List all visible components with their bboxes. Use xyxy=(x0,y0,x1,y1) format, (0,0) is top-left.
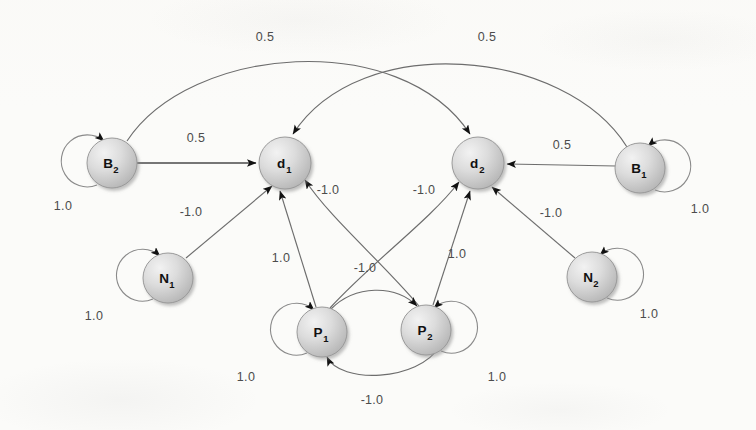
p-edge-group xyxy=(280,191,470,307)
weight-labels-layer: 0.50.50.50.5-1.0-1.01.01.0-1.0-1.0-1.0-1… xyxy=(54,30,709,407)
edge-N1-d1 xyxy=(186,186,272,258)
weight-label-d2-B1: 0.5 xyxy=(553,138,571,152)
diagram-canvas: B2d1d2B1N1N2P1P2 0.50.50.50.5-1.0-1.01.0… xyxy=(0,0,756,430)
weight-label-B2-d1: 0.5 xyxy=(187,131,205,145)
edge-d2-B1 xyxy=(507,164,616,166)
n-edge-group xyxy=(186,186,575,258)
weight-label-P1-d1: 1.0 xyxy=(272,251,290,265)
weight-label-P2-d1: -1.0 xyxy=(317,183,340,197)
edge-B1-d1 xyxy=(293,64,627,147)
nodes-layer: B2d1d2B1N1N2P1P2 xyxy=(87,137,665,357)
weight-label-loop-P1: 1.0 xyxy=(237,370,255,384)
node-subscript-d2: 2 xyxy=(479,164,484,175)
weight-label-B1-d1: 0.5 xyxy=(478,30,496,44)
weight-label-N1-d1: -1.0 xyxy=(180,205,203,219)
node-label-P2: P xyxy=(417,323,426,338)
weight-label-loop-N1: 1.0 xyxy=(85,309,103,323)
node-subscript-P2: 2 xyxy=(427,331,432,342)
node-label-N2: N xyxy=(583,270,593,285)
weight-label-loop-N2: 1.0 xyxy=(640,307,658,321)
edge-N2-d2 xyxy=(492,187,575,258)
weight-label-loop-B2: 1.0 xyxy=(54,199,72,213)
edge-P1-d2 xyxy=(330,182,459,308)
weight-label-P2-P1: -1.0 xyxy=(361,393,384,407)
weight-label-P1-P2: -1.0 xyxy=(354,261,377,275)
node-subscript-d1: 1 xyxy=(286,164,292,175)
weight-label-loop-P2: 1.0 xyxy=(488,370,506,384)
node-label-B1: B xyxy=(631,161,641,176)
edge-P1-d1 xyxy=(280,191,316,307)
node-subscript-B2: 2 xyxy=(113,164,118,175)
edge-B2-d2 xyxy=(127,61,470,141)
node-subscript-B1: 1 xyxy=(641,169,647,180)
graph-svg: B2d1d2B1N1N2P1P2 0.50.50.50.5-1.0-1.01.0… xyxy=(0,0,756,430)
weight-label-P1-d2: -1.0 xyxy=(413,183,436,197)
weight-label-N2-d2: -1.0 xyxy=(540,206,563,220)
weight-label-P2-d2: 1.0 xyxy=(448,247,466,261)
cross-edge-group xyxy=(305,180,459,308)
weight-label-B2-d2: 0.5 xyxy=(256,30,274,44)
edge-P2-d1 xyxy=(305,180,419,306)
node-label-d2: d xyxy=(470,156,478,171)
node-label-P1: P xyxy=(313,325,322,340)
mid-edge-group xyxy=(137,163,616,166)
weight-label-loop-B1: 1.0 xyxy=(691,202,709,216)
self-loop-group xyxy=(61,135,690,355)
node-label-d1: d xyxy=(277,156,285,171)
node-label-B2: B xyxy=(103,156,113,171)
node-subscript-N2: 2 xyxy=(593,278,598,289)
node-subscript-P1: 1 xyxy=(323,333,329,344)
node-subscript-N1: 1 xyxy=(169,279,175,290)
node-label-N1: N xyxy=(159,271,169,286)
